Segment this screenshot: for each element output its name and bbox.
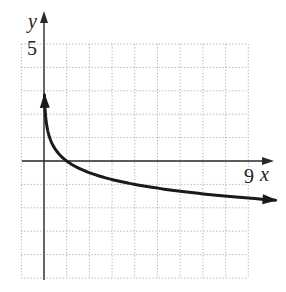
y-axis-arrow-icon	[40, 11, 48, 23]
curve-start-arrow-icon	[40, 93, 50, 108]
graph: y 5 9 x	[0, 0, 286, 292]
axes	[22, 11, 274, 280]
x-axis-label: x	[259, 163, 269, 185]
x-tick-label: 9	[244, 165, 254, 187]
y-tick-label: 5	[27, 37, 37, 59]
y-axis-label: y	[26, 10, 37, 33]
